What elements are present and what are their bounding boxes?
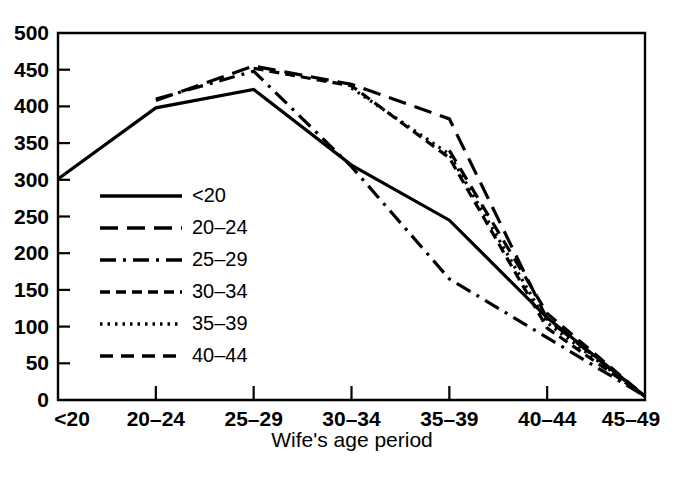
- legend-label: 30–34: [192, 280, 248, 302]
- legend-label: 35–39: [192, 312, 248, 334]
- series-line-40to44: [449, 150, 645, 396]
- x-tick-label: <20: [54, 407, 90, 430]
- y-tick-label: 200: [14, 241, 49, 264]
- y-tick-label: 100: [14, 315, 49, 338]
- x-tick-label: 20–24: [127, 407, 186, 430]
- series-line-under20: [58, 90, 645, 397]
- legend-label: 40–44: [192, 344, 248, 366]
- legend-label: <20: [192, 184, 226, 206]
- line-chart-figure: 050100150200250300350400450500 <2020–242…: [0, 0, 687, 487]
- x-tick-label: 30–34: [322, 407, 381, 430]
- x-tick-label: 25–29: [224, 407, 282, 430]
- legend-label: 25–29: [192, 248, 248, 270]
- legend-label: 20–24: [192, 216, 248, 238]
- y-tick-label: 400: [14, 94, 49, 117]
- y-tick-label: 500: [14, 21, 49, 44]
- y-tick-label: 350: [14, 131, 49, 154]
- y-axis-ticks: 050100150200250300350400450500: [14, 21, 70, 411]
- y-tick-label: 0: [37, 388, 49, 411]
- data-series-group: [58, 66, 645, 396]
- chart-legend: <2020–2425–2930–3435–3940–44: [100, 184, 248, 366]
- x-tick-label: 45–49: [602, 407, 660, 430]
- y-tick-label: 250: [14, 205, 49, 228]
- x-axis-title: Wife's age period: [271, 428, 433, 451]
- y-tick-label: 50: [26, 351, 49, 374]
- y-tick-label: 150: [14, 278, 49, 301]
- y-tick-label: 300: [14, 168, 49, 191]
- x-tick-label: 40–44: [518, 407, 577, 430]
- series-line-35to39: [352, 88, 646, 396]
- chart-container: 050100150200250300350400450500 <2020–242…: [0, 0, 687, 487]
- x-tick-label: 35–39: [420, 407, 478, 430]
- y-tick-label: 450: [14, 58, 49, 81]
- x-axis-ticks: <2020–2425–2930–3435–3940–4445–49: [54, 386, 660, 430]
